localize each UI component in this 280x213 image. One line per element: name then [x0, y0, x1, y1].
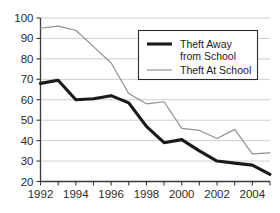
legend-label-theft-away-line2: from School	[180, 50, 236, 62]
y-tick-label: 80	[21, 53, 34, 65]
y-tick-label: 100	[14, 12, 33, 24]
x-tick-label: 1994	[63, 188, 89, 200]
x-tick-label: 1998	[134, 188, 160, 200]
legend-label-theft-at-school: Theft At School	[180, 64, 251, 76]
y-tick-label: 20	[21, 176, 34, 188]
legend-label-theft-away-line1: Theft Away	[180, 38, 233, 50]
y-axis-tick-labels: 2030405060708090100	[14, 12, 33, 188]
series-line-theft-away-from-school	[41, 80, 271, 174]
line-chart: 2030405060708090100 19921994199619982000…	[0, 0, 280, 213]
y-tick-label: 90	[21, 32, 34, 44]
y-tick-label: 50	[21, 114, 34, 126]
x-tick-label: 2004	[240, 188, 266, 200]
x-tick-label: 1992	[28, 188, 54, 200]
x-axis-tick-labels: 1992199419961998200020022004	[28, 188, 266, 200]
y-tick-label: 30	[21, 155, 34, 167]
x-tick-label: 2000	[169, 188, 195, 200]
chart-caption	[26, 200, 256, 211]
chart-legend[interactable]: Theft Away from School Theft At School	[139, 31, 258, 80]
x-tick-label: 2002	[204, 188, 230, 200]
y-tick-label: 70	[21, 73, 34, 85]
y-tick-label: 60	[21, 94, 34, 106]
y-tick-label: 40	[21, 135, 34, 147]
x-tick-label: 1996	[98, 188, 124, 200]
chart-container: 2030405060708090100 19921994199619982000…	[0, 0, 280, 213]
